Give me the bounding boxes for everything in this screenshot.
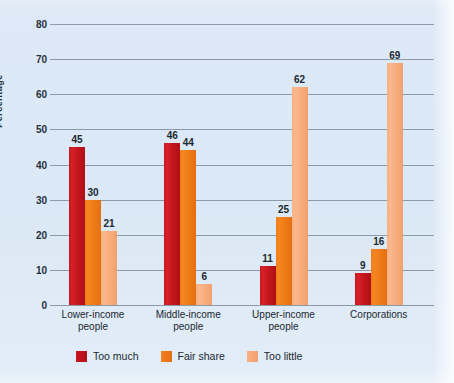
bar-fill [69, 147, 85, 305]
y-axis-tick-label: 10 [13, 264, 47, 275]
x-axis-category-label: Middle-incomepeople [138, 309, 238, 333]
legend-color-swatch [161, 351, 172, 362]
bar-fill [85, 200, 101, 305]
x-axis-category-label: Corporations [329, 309, 429, 321]
gridline [53, 24, 434, 25]
bar-fill [355, 273, 371, 305]
x-axis-category-label: Upper-incomepeople [234, 309, 334, 333]
plot-area: 4530214644611256291669 [53, 24, 434, 305]
bar-fill [196, 284, 212, 305]
bar-value-label: 62 [294, 74, 305, 85]
y-axis-tick-label: 80 [13, 19, 47, 30]
x-axis-category-label-line: Upper-income [234, 309, 334, 321]
bar-fill [371, 249, 387, 305]
y-axis-tick-label: 70 [13, 54, 47, 65]
bar-value-label: 69 [389, 50, 400, 61]
bar: 45 [69, 147, 85, 305]
page-scan-highlight-right [432, 0, 454, 383]
y-axis-tick-label: 20 [13, 229, 47, 240]
legend-color-swatch [76, 351, 87, 362]
gridline [53, 200, 434, 201]
bar: 46 [164, 143, 180, 305]
bar-value-label: 11 [262, 253, 273, 264]
y-axis-title: Percentage [0, 74, 4, 128]
legend-item: Too much [76, 350, 139, 362]
legend-label: Too much [93, 350, 139, 362]
legend-item: Too little [247, 350, 303, 362]
gridline [53, 129, 434, 130]
legend-item: Fair share [161, 350, 225, 362]
bar-value-label: 30 [87, 187, 98, 198]
bar: 16 [371, 249, 387, 305]
bar-chart: Percentage 01020304050607080 45302146446… [0, 0, 454, 383]
bar-value-label: 9 [360, 260, 366, 271]
y-axis-tick-label: 30 [13, 194, 47, 205]
x-axis-category-label-line: Middle-income [138, 309, 238, 321]
bar-value-label: 16 [373, 236, 384, 247]
bar: 9 [355, 273, 371, 305]
legend-color-swatch [247, 351, 258, 362]
x-axis-category-label-line: people [138, 321, 238, 333]
page-scan-highlight-bottom [0, 369, 454, 383]
gridline [53, 305, 434, 306]
bar: 30 [85, 200, 101, 305]
bar: 21 [101, 231, 117, 305]
bar-value-label: 6 [201, 271, 207, 282]
bar-fill [101, 231, 117, 305]
bar-value-label: 45 [71, 134, 82, 145]
y-axis-tick-label: 40 [13, 159, 47, 170]
legend-label: Fair share [178, 350, 225, 362]
gridline [53, 94, 434, 95]
legend-label: Too little [264, 350, 303, 362]
gridline [53, 165, 434, 166]
bar: 25 [276, 217, 292, 305]
x-axis-category-label: Lower-incomepeople [43, 309, 143, 333]
bar: 62 [292, 87, 308, 305]
y-axis-tick-label: 60 [13, 89, 47, 100]
bar: 11 [260, 266, 276, 305]
chart-legend: Too muchFair shareToo little [76, 350, 324, 362]
x-axis-category-label-line: Lower-income [43, 309, 143, 321]
bar-fill [260, 266, 276, 305]
bar-value-label: 25 [278, 204, 289, 215]
bar-fill [387, 63, 403, 305]
bar-fill [164, 143, 180, 305]
x-axis-category-label-line: people [234, 321, 334, 333]
bar-fill [292, 87, 308, 305]
bar-fill [276, 217, 292, 305]
bar: 6 [196, 284, 212, 305]
gridline [53, 59, 434, 60]
page-scan-highlight-top [0, 0, 454, 10]
bar-value-label: 44 [183, 137, 194, 148]
bar: 44 [180, 150, 196, 305]
x-axis-category-label-line: people [43, 321, 143, 333]
bar-fill [180, 150, 196, 305]
y-axis-tick-label: 0 [13, 300, 47, 311]
bar-value-label: 21 [103, 218, 114, 229]
x-axis-category-label-line: Corporations [329, 309, 429, 321]
bar: 69 [387, 63, 403, 305]
y-axis-tick-label: 50 [13, 124, 47, 135]
bar-value-label: 46 [167, 130, 178, 141]
